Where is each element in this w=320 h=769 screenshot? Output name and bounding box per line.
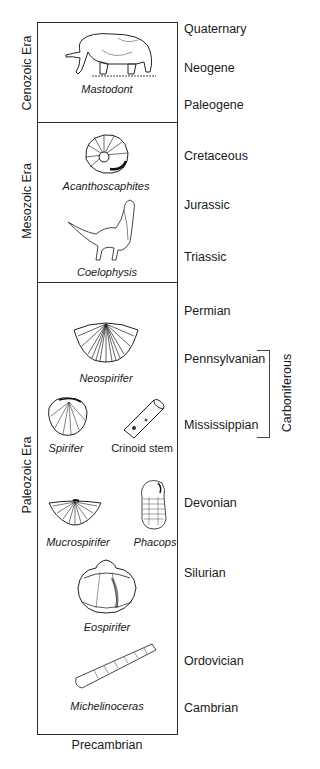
fossil-label-coelophysis: Coelophysis xyxy=(77,266,137,278)
fossil-label-crinoid-stem: Crinoid stem xyxy=(111,442,173,454)
fossil-label-michelinoceras: Michelinoceras xyxy=(70,700,143,712)
carboniferous-bracket xyxy=(257,350,270,438)
fossil-label-neospirifer: Neospirifer xyxy=(79,372,132,384)
fossil-label-mucrospirifer: Mucrospirifer xyxy=(46,536,110,548)
fossil-label-acanthoscaphites: Acanthoscaphites xyxy=(63,180,150,192)
period-ordovician: Ordovician xyxy=(184,654,244,668)
era-label-paleozoic: Paleozoic Era xyxy=(20,436,34,513)
period-jurassic: Jurassic xyxy=(184,198,230,212)
fossil-label-eospirifer: Eospirifer xyxy=(84,621,130,633)
spirifer-icon xyxy=(45,394,89,438)
acanthoscaphites-icon xyxy=(82,131,130,177)
coelophysis-icon xyxy=(66,196,138,264)
period-paleogene: Paleogene xyxy=(184,98,244,112)
era-label-cenozoic: Cenozoic Era xyxy=(20,35,34,110)
era-label-mesozoic: Mesozoic Era xyxy=(20,163,34,239)
period-pennsylvanian: Pennsylvanian xyxy=(184,352,265,366)
phacops-icon xyxy=(138,479,168,531)
precambrian-label: Precambrian xyxy=(72,738,143,752)
period-silurian: Silurian xyxy=(184,566,226,580)
mastodont-icon xyxy=(62,30,160,80)
period-cretaceous: Cretaceous xyxy=(184,149,248,163)
fossil-label-spirifer: Spirifer xyxy=(49,442,84,454)
fossil-label-phacops: Phacops xyxy=(134,536,177,548)
carboniferous-label: Carboniferous xyxy=(280,354,294,433)
period-neogene: Neogene xyxy=(184,61,235,75)
eospirifer-icon xyxy=(76,558,138,614)
period-triassic: Triassic xyxy=(184,250,227,264)
crinoid-stem-icon xyxy=(120,398,166,440)
fossil-label-mastodont: Mastodont xyxy=(81,83,132,95)
period-cambrian: Cambrian xyxy=(184,701,238,715)
period-quaternary: Quaternary xyxy=(184,22,247,36)
period-mississippian: Mississippian xyxy=(184,418,258,432)
period-devonian: Devonian xyxy=(184,496,237,510)
neospirifer-icon xyxy=(72,318,140,364)
michelinoceras-icon xyxy=(74,640,158,690)
mucrospirifer-icon xyxy=(47,497,103,527)
period-permian: Permian xyxy=(184,304,231,318)
